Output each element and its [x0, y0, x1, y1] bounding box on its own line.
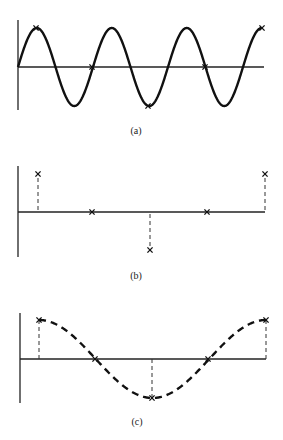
- panel-a-original-signal: (a): [18, 20, 265, 137]
- panel-a-caption: (a): [130, 125, 141, 137]
- panel-c-caption: (c): [131, 416, 142, 428]
- panel-b-samples: (b): [18, 166, 268, 282]
- panel-b-caption: (b): [130, 270, 142, 282]
- panel-c-reconstruction: (c): [20, 313, 269, 428]
- aliasing-figure: (a) (b) (c): [0, 0, 283, 440]
